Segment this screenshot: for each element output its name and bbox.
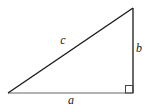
- horizontal-side-label: a: [68, 93, 74, 107]
- hypotenuse-label: c: [60, 33, 66, 47]
- triangle-hypotenuse-line: [8, 8, 133, 93]
- right-angle-marker-icon: [126, 86, 134, 94]
- vertical-side-label: b: [136, 41, 142, 55]
- triangle-diagram-svg: c b a: [0, 0, 150, 112]
- right-triangle-figure: c b a: [0, 0, 150, 112]
